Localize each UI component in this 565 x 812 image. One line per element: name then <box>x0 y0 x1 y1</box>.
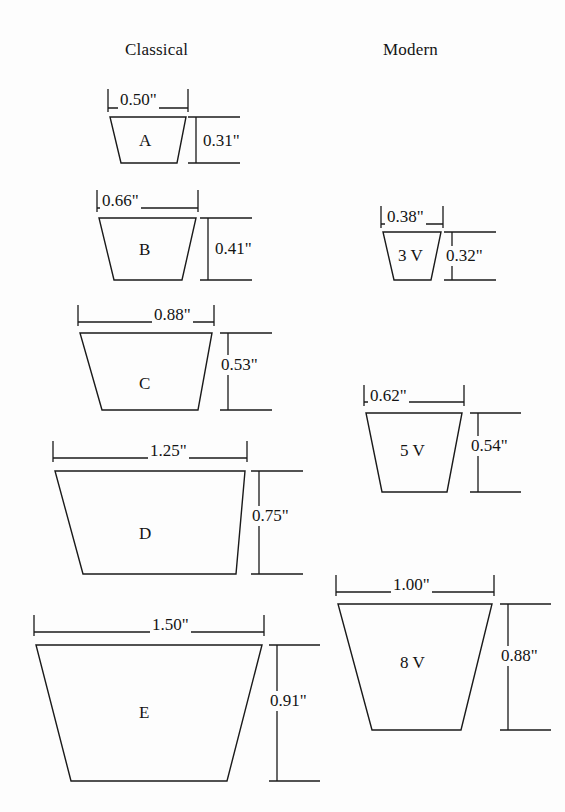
belt-3v-name-label: 3 V <box>398 246 423 266</box>
belt-a-width-label: 0.50" <box>118 90 159 110</box>
belt-b-height-label: 0.41" <box>213 239 254 259</box>
belt-3v-height-label: 0.32" <box>444 246 485 266</box>
belt-e-width-label: 1.50" <box>150 615 191 635</box>
belt-5v-width-label: 0.62" <box>368 386 409 406</box>
belt-8v-width-label: 1.00" <box>391 575 432 595</box>
belt-a-name-label: A <box>139 131 151 151</box>
belt-5v-name-label: 5 V <box>400 441 425 461</box>
belt-d-name-label: D <box>139 524 151 544</box>
belt-c-cross-section <box>80 333 212 410</box>
belt-c-name-label: C <box>139 374 150 394</box>
v-belt-cross-section-figure: Classical Modern 0.50" 0.31" A 0.66" 0.4… <box>0 0 565 812</box>
column-heading-modern: Modern <box>383 40 438 60</box>
belt-8v-height-label: 0.88" <box>499 646 540 666</box>
belt-5v-height-label: 0.54" <box>469 436 510 456</box>
belt-d-width-label: 1.25" <box>148 441 189 461</box>
belt-a-height-label: 0.31" <box>201 131 242 151</box>
belt-d-height-label: 0.75" <box>250 506 291 526</box>
belt-8v-name-label: 8 V <box>400 653 425 673</box>
belt-3v-width-label: 0.38" <box>385 207 426 227</box>
belt-e-height-label: 0.91" <box>268 691 309 711</box>
belt-c-width-label: 0.88" <box>152 305 193 325</box>
belt-b-width-label: 0.66" <box>100 191 141 211</box>
belt-e-name-label: E <box>139 703 149 723</box>
column-heading-classical: Classical <box>125 40 188 60</box>
belt-d-cross-section <box>55 471 245 574</box>
belt-c-height-label: 0.53" <box>219 355 260 375</box>
belt-b-name-label: B <box>139 240 150 260</box>
